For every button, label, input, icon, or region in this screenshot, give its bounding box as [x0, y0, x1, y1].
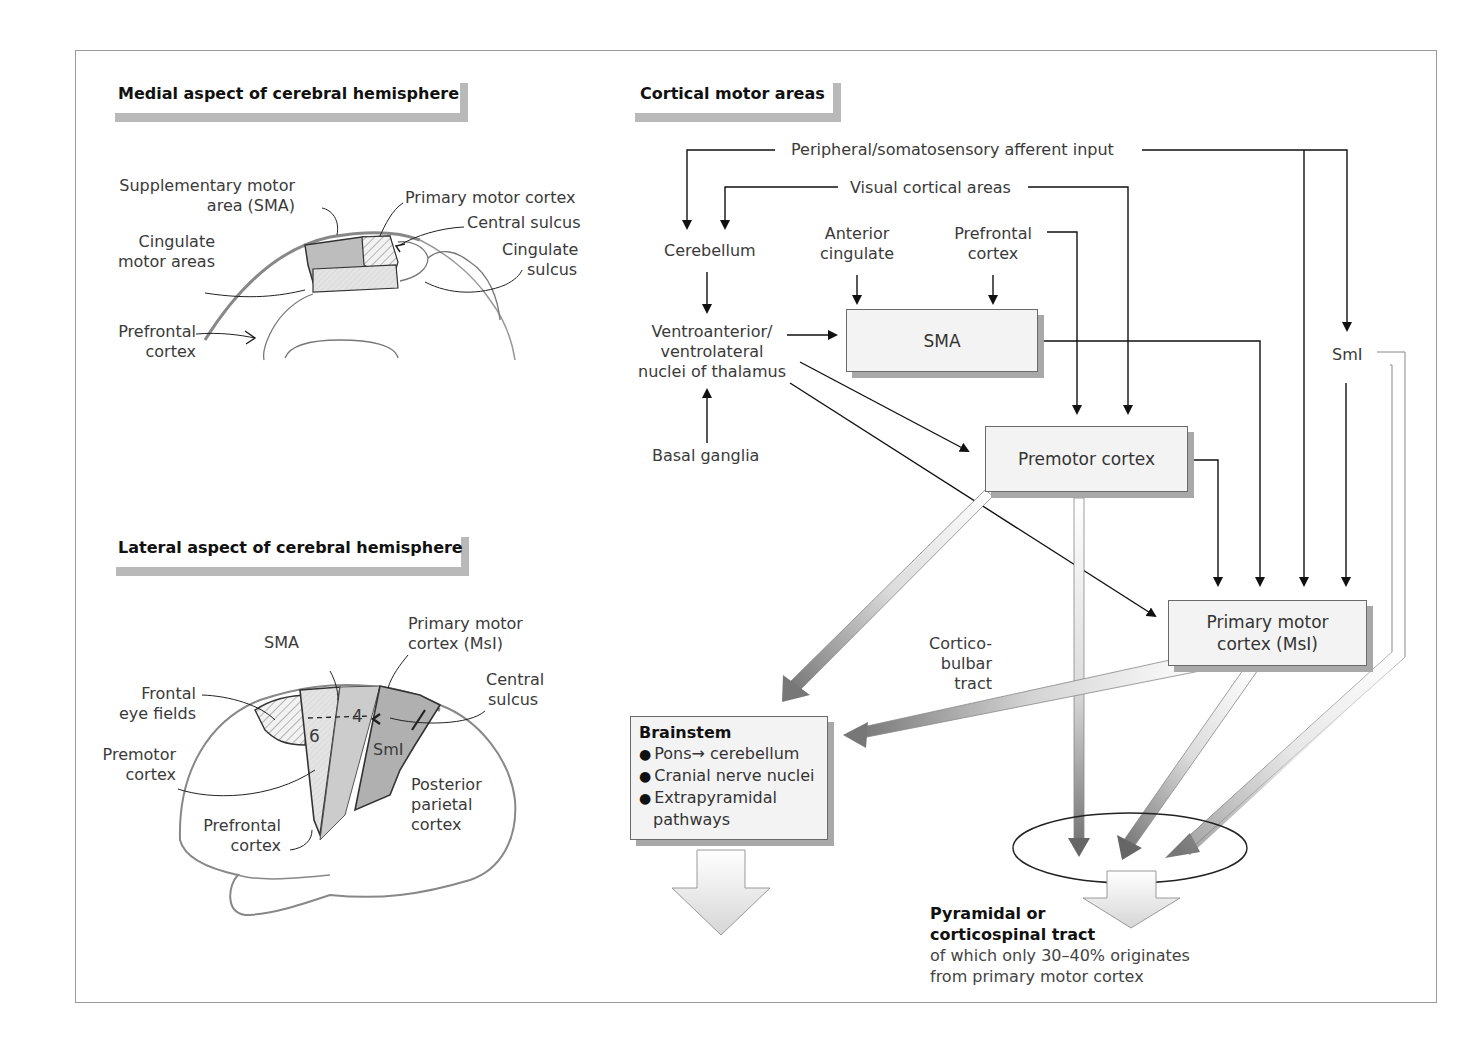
box-sma: SMA — [846, 309, 1038, 372]
label-smi-lateral: SmI — [373, 740, 403, 760]
pyramidal-subtitle-line: of which only 30–40% originates — [930, 945, 1190, 966]
label-primary-motor-lateral: Primary motor cortex (MsI) — [408, 614, 523, 654]
brainstem-item-text: Pons→ cerebellum — [654, 744, 799, 763]
label-line: Premotor — [90, 745, 176, 765]
label-line: cortex — [100, 342, 196, 362]
label-line: cortex (MsI) — [1206, 633, 1328, 655]
label-central-sulcus-medial: Central sulcus — [467, 213, 581, 233]
label-line: Prefrontal — [100, 322, 196, 342]
label-line: cortex — [90, 765, 176, 785]
label-line: motor areas — [100, 252, 215, 272]
label-line: parietal — [411, 795, 482, 815]
label-frontal-eye-fields: Frontal eye fields — [100, 684, 196, 724]
brainstem-item-continuation: pathways — [639, 809, 819, 830]
label-line: Cingulate — [100, 232, 215, 252]
label-sma-medial: Supplementary motor area (SMA) — [100, 176, 295, 216]
heading-lateral: Lateral aspect of cerebral hemisphere — [118, 538, 463, 557]
label-line: sulcus — [502, 260, 578, 280]
label-line: Central — [486, 670, 544, 690]
label-thalamus: Ventroanterior/ ventrolateral nuclei of … — [632, 322, 792, 382]
pyramidal-title-line: corticospinal tract — [930, 924, 1190, 945]
label-posterior-parietal: Posterior parietal cortex — [411, 775, 482, 835]
label-line: tract — [900, 674, 992, 694]
label-central-sulcus-lateral: Central sulcus — [486, 670, 544, 710]
label-basal-ganglia: Basal ganglia — [652, 446, 759, 466]
label-line: Ventroanterior/ — [632, 322, 792, 342]
brainstem-item-text: Extrapyramidal — [654, 788, 777, 807]
box-premotor-cortex: Premotor cortex — [985, 426, 1188, 492]
box-sma-label: SMA — [923, 330, 960, 352]
box-primary-label: Primary motor cortex (MsI) — [1206, 611, 1328, 655]
label-visual-cortical: Visual cortical areas — [846, 178, 1015, 198]
brainstem-item-text: Cranial nerve nuclei — [654, 766, 814, 785]
label-line: cingulate — [812, 244, 902, 264]
label-prefrontal-lateral: Prefrontal cortex — [185, 816, 281, 856]
label-prefrontal-cortex-input: Prefrontal cortex — [948, 224, 1038, 264]
label-line: cortex — [948, 244, 1038, 264]
label-premotor-lateral: Premotor cortex — [90, 745, 176, 785]
label-line: bulbar — [900, 654, 992, 674]
label-line: cortex (MsI) — [408, 634, 523, 654]
brainstem-item: ●Cranial nerve nuclei — [639, 765, 819, 787]
label-line: area (SMA) — [100, 196, 295, 216]
pyramidal-subtitle-line: from primary motor cortex — [930, 966, 1190, 987]
primary-to-pyramidal-tract — [1117, 670, 1258, 860]
premotor-to-pyramidal-tract — [1068, 498, 1090, 857]
label-line: eye fields — [100, 704, 196, 724]
label-area-4: 4 — [352, 706, 363, 726]
label-peripheral-input: Peripheral/somatosensory afferent input — [787, 140, 1118, 160]
label-line: Cortico- — [900, 634, 992, 654]
label-line: ventrolateral — [632, 342, 792, 362]
diagram-graphics — [0, 0, 1481, 1056]
bullet-icon: ● — [639, 768, 651, 784]
pyramidal-tract-caption: Pyramidal or corticospinal tract of whic… — [930, 903, 1190, 987]
heading-cortical: Cortical motor areas — [640, 84, 825, 103]
label-cingulate-motor: Cingulate motor areas — [100, 232, 215, 272]
brainstem-item: ●Extrapyramidal — [639, 787, 819, 809]
label-line: cortex — [185, 836, 281, 856]
label-line: Frontal — [100, 684, 196, 704]
box-primary-motor-cortex: Primary motor cortex (MsI) — [1168, 600, 1367, 666]
label-anterior-cingulate: Anterior cingulate — [812, 224, 902, 264]
heading-medial: Medial aspect of cerebral hemisphere — [118, 84, 459, 103]
label-prefrontal-medial: Prefrontal cortex — [100, 322, 196, 362]
label-area-6: 6 — [309, 726, 320, 746]
label-primary-motor-medial: Primary motor cortex — [405, 188, 575, 208]
label-line: cortex — [411, 815, 482, 835]
label-line: Anterior — [812, 224, 902, 244]
label-sma-lateral: SMA — [264, 633, 299, 653]
brainstem-title: Brainstem — [639, 723, 819, 743]
label-cingulate-sulcus: Cingulate sulcus — [502, 240, 578, 280]
corticobulbar-tract — [843, 660, 1205, 748]
brainstem-item: ●Pons→ cerebellum — [639, 743, 819, 765]
bullet-icon: ● — [639, 790, 651, 806]
label-smi-input: SmI — [1332, 345, 1362, 365]
box-premotor-label: Premotor cortex — [1018, 448, 1155, 470]
label-line: Cingulate — [502, 240, 578, 260]
afferent-pathway-lines — [687, 150, 1347, 616]
smi-tract-fill — [1178, 652, 1405, 855]
pyramidal-title-line: Pyramidal or — [930, 903, 1190, 924]
label-line: Prefrontal — [948, 224, 1038, 244]
label-line: nuclei of thalamus — [632, 362, 792, 382]
brainstem-output-arrow — [672, 850, 770, 935]
label-line: sulcus — [486, 690, 544, 710]
label-line: Primary motor — [1206, 611, 1328, 633]
label-cerebellum: Cerebellum — [664, 241, 756, 261]
bullet-icon: ● — [639, 746, 651, 762]
label-line: Prefrontal — [185, 816, 281, 836]
label-line: Supplementary motor — [100, 176, 295, 196]
box-brainstem: Brainstem ●Pons→ cerebellum ●Cranial ner… — [630, 716, 828, 840]
label-line: Primary motor — [408, 614, 523, 634]
label-line: Posterior — [411, 775, 482, 795]
label-corticobulbar-tract: Cortico- bulbar tract — [900, 634, 992, 694]
